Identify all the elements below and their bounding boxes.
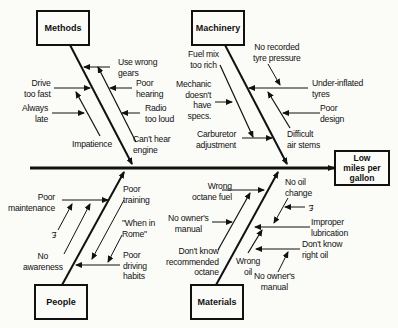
cause-label: No recorded tyre pressure: [253, 42, 301, 63]
cause-label: Radio too loud: [145, 103, 174, 124]
cause-label: Poor design: [320, 103, 344, 124]
fishbone-diagram: Methods Machinery People Materials Low m…: [0, 0, 398, 328]
effect-box: Low miles per gallon: [334, 150, 390, 186]
cause-label: Difficult air stems: [287, 129, 320, 150]
cause-label: Don't know right oil: [302, 239, 342, 260]
category-machinery: Machinery: [191, 10, 245, 46]
cause-label: Can't hear engine: [133, 134, 170, 155]
cause-label: Wrong octane fuel: [192, 181, 232, 202]
pound-sign-label: £: [52, 229, 57, 240]
cause-label: No owner's manual: [168, 213, 209, 234]
cause-label: Improper lubrication: [311, 217, 348, 238]
category-methods: Methods: [36, 10, 90, 46]
cause-label: Fuel mix too rich: [188, 49, 219, 70]
cause-label: "When in Rome": [122, 218, 155, 239]
pound-sign-label: £: [309, 202, 314, 213]
cause-label: Impatience: [72, 139, 112, 150]
cause-label: No oil change: [285, 177, 312, 198]
cause-label: Don't know recommended octane: [166, 246, 219, 278]
cause-label: Poor hearing: [136, 78, 163, 99]
cause-label: Use wrong gears: [118, 57, 157, 78]
cause-label: Mechanic doesn't have specs.: [176, 79, 211, 121]
cause-label: Drive too fast: [24, 78, 51, 99]
cause-label: Poor driving habits: [123, 250, 147, 282]
cause-label: Poor maintenance: [8, 192, 55, 213]
category-people: People: [34, 284, 88, 320]
cause-label: Carburetor adjustment: [196, 129, 236, 150]
cause-label: No owner's manual: [254, 271, 295, 292]
cause-label: No awareness: [23, 251, 63, 272]
cause-label: Always late: [22, 103, 48, 124]
cause-label: Poor training: [123, 184, 150, 205]
cause-label: Under-inflated tyres: [312, 78, 363, 99]
people-bone: [62, 172, 124, 285]
category-materials: Materials: [190, 284, 244, 320]
